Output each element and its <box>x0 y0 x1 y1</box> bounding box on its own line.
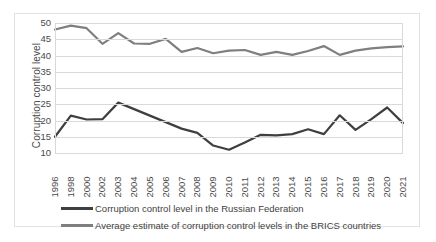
x-tick-label: 2015 <box>303 176 313 197</box>
y-tick-label: 30 <box>29 83 51 93</box>
x-tick-label: 2021 <box>398 176 408 197</box>
x-tick-label: 2013 <box>271 176 281 197</box>
gridline-y-45 <box>55 39 403 40</box>
chart-container: Corruption control level 504540353025201… <box>14 13 420 227</box>
legend-item-2[interactable]: Average estimate of corruption control l… <box>61 217 411 234</box>
gridline-y-40 <box>55 56 403 57</box>
legend-label: Average estimate of corruption control l… <box>95 220 381 231</box>
axis-line-right <box>402 23 403 153</box>
x-tick-label: 2009 <box>208 176 218 197</box>
legend-swatch-icon <box>61 207 93 210</box>
y-axis-tick-labels: 504540353025201510 <box>27 23 51 153</box>
x-tick-label: 2020 <box>382 176 392 197</box>
series-line-1 <box>55 103 403 150</box>
axis-line-left <box>55 23 56 153</box>
gridline-y-35 <box>55 72 403 73</box>
legend-swatch-icon <box>61 224 93 227</box>
x-axis-tick-labels: 1996199820002002200320042005200620072008… <box>55 155 403 197</box>
x-tick-label: 2017 <box>334 176 344 197</box>
x-tick-label: 2010 <box>224 176 234 197</box>
x-tick-label: 2005 <box>144 176 154 197</box>
gridline-y-30 <box>55 88 403 89</box>
x-tick-label: 2004 <box>129 176 139 197</box>
y-tick-label: 40 <box>29 51 51 61</box>
y-tick-label: 45 <box>29 35 51 45</box>
y-tick-label: 15 <box>29 132 51 142</box>
x-tick-label: 2007 <box>176 176 186 197</box>
x-tick-label: 2014 <box>287 176 297 197</box>
gridline-y-25 <box>55 104 403 105</box>
x-tick-label: 2016 <box>318 176 328 197</box>
plot-area-wrapper <box>55 23 403 153</box>
x-tick-label: 2008 <box>192 176 202 197</box>
y-tick-label: 25 <box>29 100 51 110</box>
y-tick-label: 10 <box>29 148 51 158</box>
x-tick-label: 2018 <box>350 176 360 197</box>
y-tick-label: 20 <box>29 116 51 126</box>
x-tick-label: 1998 <box>65 176 75 197</box>
legend-item-1[interactable]: Corruption control level in the Russian … <box>61 200 411 217</box>
legend-label: Corruption control level in the Russian … <box>95 203 304 214</box>
x-tick-label: 2012 <box>255 176 265 197</box>
gridline-y-50 <box>55 23 403 24</box>
gridline-y-15 <box>55 137 403 138</box>
gridline-y-20 <box>55 121 403 122</box>
x-tick-label: 1996 <box>50 176 60 197</box>
y-tick-label: 35 <box>29 67 51 77</box>
x-tick-label: 2019 <box>366 176 376 197</box>
y-tick-label: 50 <box>29 18 51 28</box>
x-tick-label: 2000 <box>81 176 91 197</box>
gridline-y-10 <box>55 153 403 154</box>
x-tick-label: 2011 <box>239 177 249 197</box>
chart-legend: Corruption control level in the Russian … <box>61 200 411 234</box>
x-tick-label: 2002 <box>97 176 107 197</box>
plot-area <box>55 23 403 153</box>
x-tick-label: 2006 <box>160 176 170 197</box>
x-tick-label: 2003 <box>113 176 123 197</box>
